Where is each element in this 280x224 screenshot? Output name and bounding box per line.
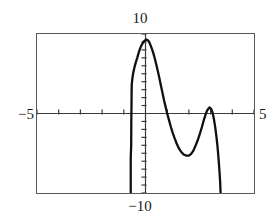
plot-canvas (37, 34, 254, 193)
plot-frame (36, 33, 255, 194)
function-curve (131, 40, 221, 193)
calculator-plot-screenshot: 10 −10 −5 5 (0, 0, 280, 224)
x-axis-min-label: −5 (2, 107, 34, 122)
y-axis-max-label: 10 (0, 11, 280, 26)
y-axis-min-label: −10 (0, 199, 280, 214)
x-axis-max-label: 5 (259, 107, 279, 122)
